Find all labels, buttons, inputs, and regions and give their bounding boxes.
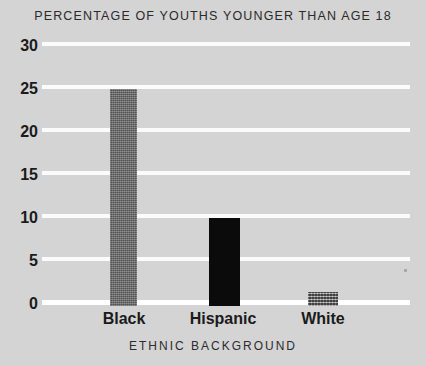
- y-tick-label-10: 10: [4, 210, 38, 226]
- scan-artifact-speck: [404, 269, 407, 272]
- y-tick-label-20: 20: [4, 124, 38, 140]
- y-tick-label-0: 0: [4, 296, 38, 312]
- bar-black: [110, 89, 137, 306]
- y-tick-label-15: 15: [4, 167, 38, 183]
- category-label-hispanic: Hispanic: [168, 309, 278, 328]
- bar-hispanic: [209, 218, 240, 306]
- chart-title: PERCENTAGE OF YOUTHS YOUNGER THAN AGE 18: [0, 9, 426, 23]
- y-tick-label-25: 25: [4, 81, 38, 97]
- gridline-15: [42, 171, 410, 175]
- plot-area: [42, 38, 410, 306]
- gridline-20: [42, 128, 410, 132]
- x-axis-category-labels: Black Hispanic White: [42, 309, 410, 331]
- y-tick-label-5: 5: [4, 253, 38, 269]
- category-label-white: White: [277, 309, 369, 328]
- bar-chart: PERCENTAGE OF YOUTHS YOUNGER THAN AGE 18…: [0, 0, 426, 366]
- x-axis-title: ETHNIC BACKGROUND: [0, 339, 426, 353]
- bar-white: [308, 292, 338, 306]
- gridline-30: [42, 42, 410, 46]
- gridline-25: [42, 85, 410, 89]
- category-label-black: Black: [78, 309, 170, 328]
- y-tick-label-30: 30: [4, 38, 38, 54]
- y-axis: 30 25 20 15 10 5 0: [0, 38, 38, 306]
